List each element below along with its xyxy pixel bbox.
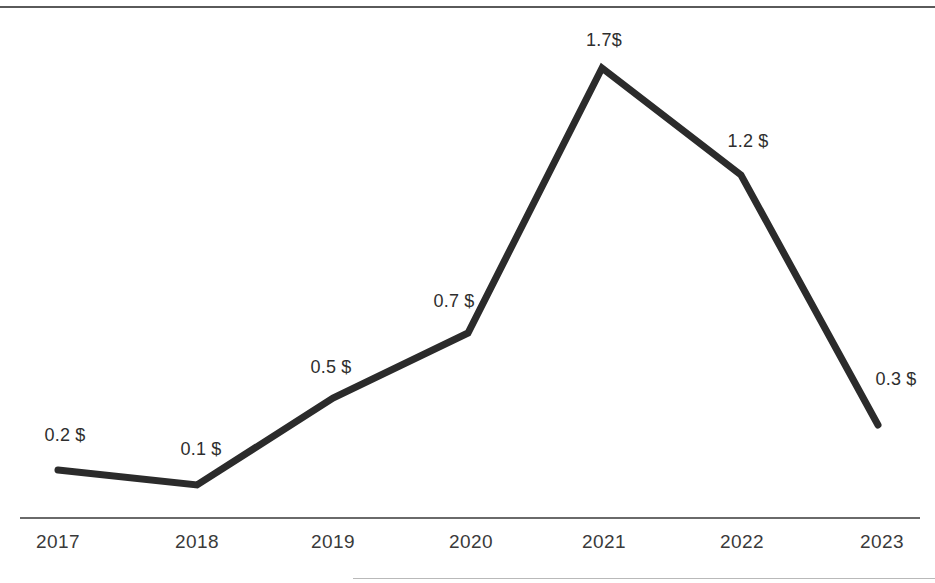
bottom-divider-rule [353,578,935,579]
line-chart: 2017201820192020202120222023 0.2 $0.1 $0… [0,0,935,583]
x-axis-tick-2023: 2023 [860,531,904,553]
data-point-label-2020: 0.7 $ [433,291,474,311]
data-point-label-2018: 0.1 $ [180,439,221,459]
data-point-label-2023: 0.3 $ [875,369,916,389]
x-axis-tick-2022: 2022 [720,531,764,553]
x-axis-tick-2021: 2021 [582,531,626,553]
data-point-label-2019: 0.5 $ [310,357,351,377]
data-point-label-2017: 0.2 $ [44,425,85,445]
x-axis-line [20,517,920,519]
data-point-label-2022: 1.2 $ [727,131,768,151]
x-axis-tick-2020: 2020 [449,531,493,553]
x-axis-tick-2018: 2018 [175,531,219,553]
x-axis-tick-2017: 2017 [36,531,80,553]
x-axis-tick-2019: 2019 [311,531,355,553]
data-point-label-2021: 1.7$ [586,30,622,50]
